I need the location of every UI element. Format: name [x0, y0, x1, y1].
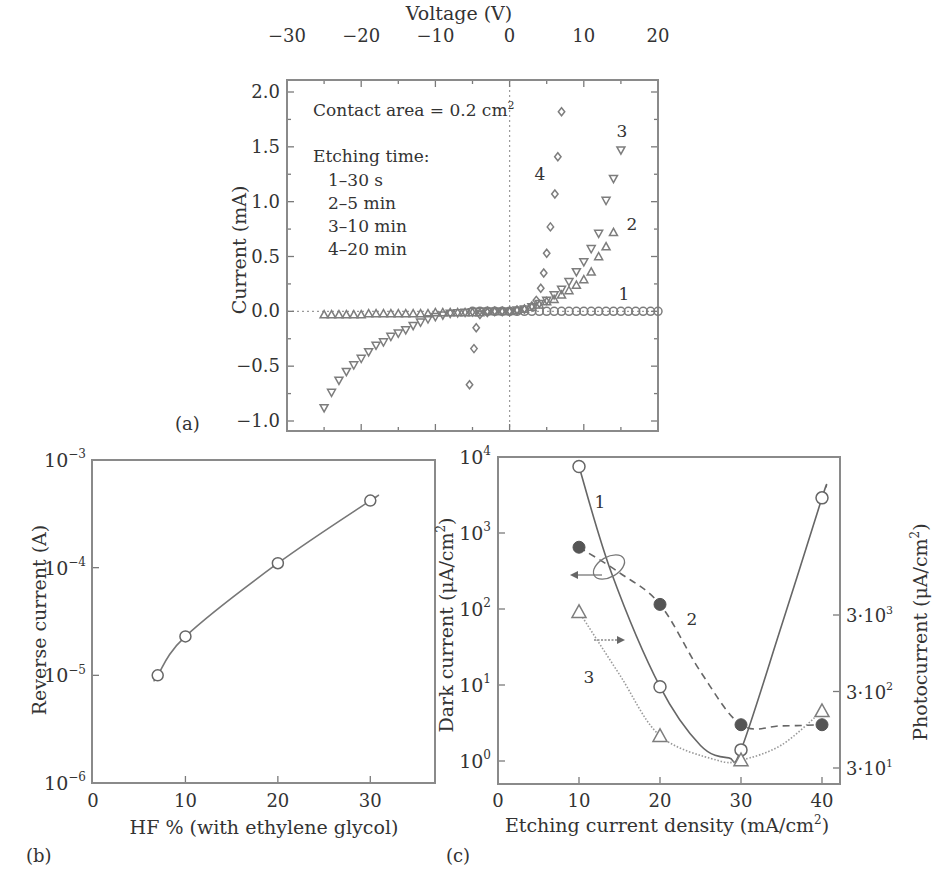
panel-c-left-y-axis-label: Dark current (μA/cm2) [434, 518, 457, 733]
diamond-marker [555, 153, 561, 161]
etching-time-title: Etching time: [313, 146, 430, 166]
series-4 [466, 108, 564, 389]
left-y-tick-label: 101 [459, 672, 491, 696]
etching-time-legend: 1–30 s2–5 min3–10 min4–20 min [328, 170, 407, 259]
open-circle-marker [573, 460, 585, 472]
filled-circle-marker [816, 719, 828, 731]
panel-b-series [152, 495, 378, 681]
triangle-up-marker [387, 310, 395, 317]
curve-label-1: 1 [619, 284, 630, 304]
panel-a-x-axis-title: Voltage (V) [405, 2, 512, 24]
triangle-down-marker [379, 339, 387, 346]
curve-label-3: 3 [617, 121, 628, 141]
legend-item-1: 1–30 s [328, 170, 383, 190]
open-circle-marker [365, 495, 376, 506]
open-circle-marker [816, 492, 828, 504]
filled-circle-marker [654, 598, 666, 610]
diamond-marker [466, 381, 472, 389]
y-tick-label: 10−5 [44, 663, 86, 687]
x-tick-label: 10 [174, 790, 197, 811]
y-tick-label: 0.0 [251, 300, 280, 321]
panel-c-x-tick-labels: 010203040 [492, 790, 833, 811]
panel-b-plot-frame [92, 460, 435, 783]
triangle-up-marker [320, 311, 328, 318]
y-tick-label: −0.5 [236, 355, 280, 376]
triangle-up-marker [565, 286, 573, 293]
left-y-tick-label: 102 [459, 596, 491, 620]
triangle-down-marker [320, 405, 328, 412]
x-tick-label: −30 [268, 25, 306, 46]
diamond-marker [558, 108, 564, 116]
open-circle-marker [152, 670, 163, 681]
open-triangle-marker [572, 605, 586, 618]
panel-c-curve-labels: 123 [584, 492, 698, 687]
legend-item-4: 4–20 min [328, 239, 407, 259]
triangle-up-marker [379, 310, 387, 317]
triangle-down-marker [409, 322, 417, 329]
triangle-down-marker [402, 327, 410, 334]
triangle-down-marker [587, 246, 595, 253]
diamond-marker [471, 345, 477, 353]
legend-item-3: 3–10 min [328, 216, 407, 236]
triangle-down-marker [595, 230, 603, 237]
triangle-up-marker [372, 310, 380, 317]
x-tick-label: −20 [342, 25, 380, 46]
x-tick-label: 20 [266, 790, 289, 811]
panel-c-ticks [498, 457, 840, 784]
triangle-up-marker [335, 311, 343, 318]
contact-area-annotation: Contact area = 0.2 cm2 [313, 99, 515, 120]
right-y-tick-label: 3·102 [846, 680, 893, 702]
curve-label-2: 2 [627, 214, 638, 234]
diamond-marker [552, 190, 558, 198]
x-tick-label: 40 [811, 790, 834, 811]
triangle-up-marker [580, 276, 588, 283]
open-circle-marker [654, 681, 666, 693]
panel-c-plot-frame [498, 457, 840, 784]
y-tick-label: 10−4 [44, 555, 86, 579]
x-tick-label: 20 [647, 25, 670, 46]
panel-a-y-axis-label: Current (mA) [228, 186, 250, 315]
triangle-up-marker [609, 228, 617, 235]
panel-b-x-tick-labels: 0102030 [87, 790, 381, 811]
right-y-tick-label: 3·103 [846, 604, 893, 626]
x-tick-label: 0 [492, 790, 503, 811]
panel-c-right-y-axis-label: Photocurrent (μA/cm2) [908, 523, 931, 740]
panel-b-y-tick-labels: 10−610−510−410−3 [44, 447, 86, 794]
filled-circle-marker [735, 719, 747, 731]
triangle-up-marker [402, 310, 410, 317]
left-arrowhead-icon [570, 571, 578, 579]
dark-current-curve-1 [579, 466, 827, 762]
y-tick-label: 2.0 [251, 81, 280, 102]
curve-label-3: 3 [584, 667, 595, 687]
panel-b-y-axis-label: Reverse current (A) [28, 525, 50, 715]
triangle-down-marker [572, 269, 580, 276]
panel-c-label: (c) [446, 845, 470, 866]
panel-b-reverse-current: 0102030 10−610−510−410−3 HF % (with ethy… [26, 447, 435, 866]
diamond-marker [473, 324, 479, 332]
y-tick-label: 1.0 [251, 191, 280, 212]
panel-b-ticks [92, 460, 370, 783]
y-tick-label: −1.0 [236, 410, 280, 431]
triangle-down-marker [602, 197, 610, 204]
triangle-down-marker [394, 330, 402, 337]
panel-a-label: (a) [175, 413, 200, 434]
diamond-marker [547, 223, 553, 231]
open-circle-marker [180, 631, 191, 642]
panel-c-right-y-tick-labels: 3·1013·1023·103 [846, 604, 893, 779]
triangle-up-marker [595, 253, 603, 260]
x-tick-label: 0 [504, 25, 515, 46]
x-tick-label: −10 [416, 25, 454, 46]
y-tick-label: 0.5 [251, 246, 280, 267]
panel-a-iv-curves: Voltage (V) −30−20−1001020 −1.0−0.50.00.… [175, 2, 669, 434]
panel-b-label: (b) [26, 845, 52, 866]
triangle-up-marker [365, 310, 373, 317]
curve-label-2: 2 [687, 609, 698, 629]
left-y-tick-label: 104 [459, 444, 491, 468]
diamond-marker [544, 249, 550, 257]
triangle-down-marker [617, 147, 625, 154]
triangle-down-marker [609, 175, 617, 182]
curve-label-4: 4 [535, 164, 546, 184]
triangle-up-marker [572, 281, 580, 288]
open-triangle-marker [815, 704, 829, 717]
triangle-down-marker [387, 333, 395, 340]
